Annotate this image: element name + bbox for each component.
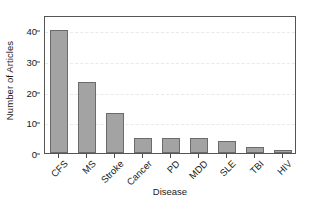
x-axis-title: Disease [44, 186, 296, 197]
x-tick-label: Stroke [99, 158, 126, 185]
y-tick-mark [36, 92, 40, 93]
y-axis-tick-labels: 010203040 [18, 0, 40, 160]
x-tick-label: PD [165, 158, 182, 175]
x-tick-label: TBI [248, 158, 266, 176]
bar [50, 30, 67, 153]
bar [218, 141, 235, 153]
y-axis-title-text: Number of Articles [5, 40, 16, 119]
y-tick-mark [36, 123, 40, 124]
bar [274, 150, 291, 153]
x-tick-label: CFS [49, 158, 70, 179]
x-tick-label: Cancer [124, 158, 153, 187]
y-tick-mark [36, 62, 40, 63]
bar [134, 138, 151, 153]
x-tick-label: SLE [217, 158, 237, 178]
y-axis-title: Number of Articles [0, 0, 20, 160]
bar [246, 147, 263, 153]
x-axis-tick-labels: CFSMSStrokeCancerPDMDDSLETBIHIV [44, 158, 296, 188]
bar [106, 113, 123, 153]
x-tick-label: HIV [275, 158, 294, 177]
plot-area [44, 16, 296, 154]
bar-chart: Number of Articles 010203040 CFSMSStroke… [0, 0, 312, 204]
y-tick-mark [36, 154, 40, 155]
bar [162, 138, 179, 153]
x-tick-label: MS [80, 158, 98, 176]
y-tick-mark [36, 31, 40, 32]
bars-layer [45, 17, 295, 153]
bar [78, 82, 95, 153]
x-tick-label: MDD [187, 158, 210, 181]
bar [190, 138, 207, 153]
